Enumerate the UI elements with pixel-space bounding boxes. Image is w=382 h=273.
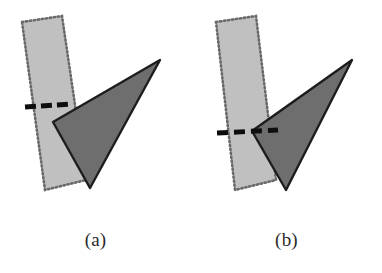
panel-a-dashed-cut-line — [25, 104, 72, 107]
figure-container: (a) (b) — [0, 0, 382, 273]
caption-panel-a: (a) — [0, 228, 191, 252]
caption-row: (a) (b) — [0, 228, 382, 268]
caption-panel-b: (b) — [191, 228, 382, 252]
